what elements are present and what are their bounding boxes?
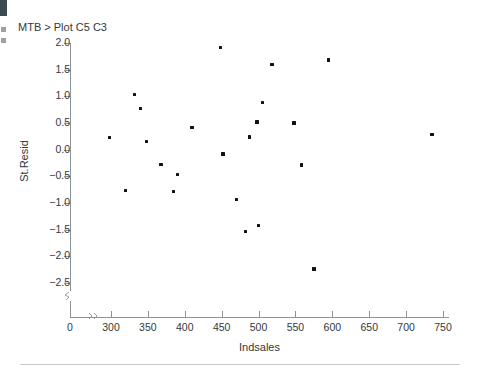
x-tick-mark (295, 311, 296, 317)
y-tick-label: 0.0 (36, 144, 70, 155)
data-point (261, 101, 264, 104)
y-tick-label: 2.0 (36, 37, 70, 48)
data-point (244, 230, 247, 233)
y-axis-title: St.Resid (18, 126, 30, 196)
y-tick-label: −1.5 (36, 224, 70, 235)
x-tick-mark (369, 311, 370, 317)
x-tick-label: 350 (128, 321, 168, 333)
x-tick-mark (259, 311, 260, 317)
x-tick-mark (111, 311, 112, 317)
data-point (172, 190, 175, 193)
x-tick-label: 300 (91, 321, 131, 333)
data-point (430, 133, 433, 136)
data-point (270, 63, 273, 66)
data-point (145, 140, 148, 143)
y-axis-break-icon (64, 291, 77, 302)
x-tick-label: 750 (423, 321, 463, 333)
data-point (292, 121, 295, 124)
y-axis-line (70, 43, 71, 291)
scatter-plot: St.Resid Indsales 2.01.51.00.50.0−0.5−1.… (0, 0, 480, 374)
x-tick-label: 400 (165, 321, 205, 333)
x-tick-label: 650 (349, 321, 389, 333)
data-point (300, 163, 303, 166)
y-tick-label: −2.5 (36, 277, 70, 288)
x-tick-label: 0 (50, 321, 90, 333)
x-tick-mark (185, 311, 186, 317)
data-point (139, 107, 142, 110)
y-tick-label: 1.0 (36, 90, 70, 101)
data-point (190, 126, 193, 129)
y-tick-label: −2.0 (36, 250, 70, 261)
x-axis-line (70, 317, 449, 318)
y-tick-label: 0.5 (36, 117, 70, 128)
x-tick-mark (332, 311, 333, 317)
data-point (248, 135, 251, 138)
x-tick-label: 450 (202, 321, 242, 333)
x-axis-title: Indsales (70, 341, 449, 354)
data-point (159, 163, 162, 166)
data-point (133, 93, 136, 96)
y-tick-label: 1.5 (36, 64, 70, 75)
data-point (312, 267, 315, 270)
x-tick-label: 600 (312, 321, 352, 333)
x-tick-label: 700 (386, 321, 426, 333)
data-point (108, 136, 111, 139)
data-point (221, 152, 224, 155)
x-axis-break-icon (86, 311, 100, 321)
x-tick-mark (148, 311, 149, 317)
data-point (176, 173, 179, 176)
x-tick-mark (222, 311, 223, 317)
data-point (235, 198, 238, 201)
data-point (124, 189, 127, 192)
y-tick-label: −0.5 (36, 170, 70, 181)
x-tick-mark (406, 311, 407, 317)
x-tick-label: 500 (239, 321, 279, 333)
data-point (257, 224, 260, 227)
screenshot-page: MTB > Plot C5 C3 St.Resid Indsales 2.01.… (0, 0, 480, 374)
y-axis-line-lower (70, 301, 71, 318)
x-tick-mark (443, 311, 444, 317)
y-tick-label: −1.0 (36, 197, 70, 208)
data-point (327, 58, 330, 61)
data-point (255, 120, 258, 123)
data-point (219, 46, 222, 49)
bottom-divider (20, 364, 460, 365)
x-tick-label: 550 (275, 321, 315, 333)
